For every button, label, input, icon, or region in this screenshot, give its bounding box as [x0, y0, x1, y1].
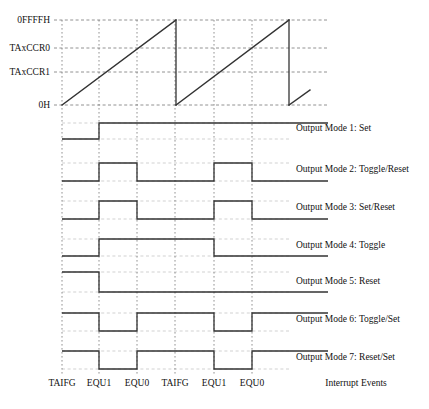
output-mode-2-label: Output Mode 2: Toggle/Reset: [296, 164, 409, 174]
output-mode-6-label: Output Mode 6: Toggle/Set: [296, 314, 400, 324]
event-label-2: EQU0: [125, 378, 150, 388]
event-label-0: TAIFG: [48, 378, 75, 388]
event-label-1: EQU1: [87, 378, 112, 388]
output-mode-4-label: Output Mode 4: Toggle: [296, 240, 385, 250]
interrupt-events-title: Interrupt Events: [325, 378, 387, 388]
output-mode-1-label: Output Mode 1: Set: [296, 123, 372, 133]
event-label-5: EQU0: [240, 378, 265, 388]
event-label-4: EQU1: [202, 378, 227, 388]
y-axis-label-2: TAxCCR1: [10, 67, 51, 77]
y-axis-label-0: 0FFFFH: [17, 15, 50, 25]
timing-diagram-root: 0FFFFHTAxCCR0TAxCCR10H Output Mode 1: Se…: [0, 0, 429, 409]
timing-diagram-svg: 0FFFFHTAxCCR0TAxCCR10H Output Mode 1: Se…: [0, 0, 429, 409]
output-mode-7-label: Output Mode 7: Reset/Set: [296, 352, 395, 362]
y-axis-label-1: TAxCCR0: [10, 43, 51, 53]
event-label-3: TAIFG: [161, 378, 188, 388]
output-mode-3-label: Output Mode 3: Set/Reset: [296, 202, 395, 212]
y-axis-label-3: 0H: [38, 100, 50, 110]
output-mode-5-label: Output Mode 5: Reset: [296, 276, 381, 286]
